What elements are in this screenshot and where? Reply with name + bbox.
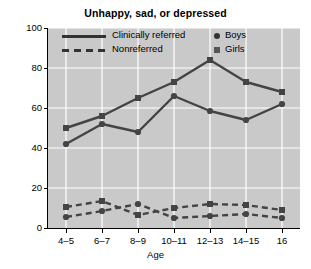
- data-point-square: [135, 95, 141, 101]
- data-point-square: [243, 79, 249, 85]
- data-point-square: [243, 202, 249, 208]
- chart-title: Unhappy, sad, or depressed: [0, 7, 311, 19]
- data-point-square: [279, 89, 285, 95]
- x-tick-mark: [174, 229, 175, 233]
- data-point-circle: [63, 214, 69, 220]
- data-point-square: [207, 201, 213, 207]
- x-tick-label: 16: [257, 235, 307, 246]
- y-tick-mark: [44, 108, 48, 109]
- square-marker-icon: [214, 47, 220, 53]
- circle-marker-icon: [214, 33, 220, 39]
- y-tick-label: 0: [16, 222, 42, 233]
- data-point-square: [63, 125, 69, 131]
- solid-line-swatch: [62, 35, 106, 38]
- data-point-circle: [207, 213, 213, 219]
- x-tick-mark: [102, 229, 103, 233]
- data-point-square: [99, 198, 105, 204]
- dashed-line-swatch: [62, 49, 106, 52]
- y-tick-label: 60: [16, 102, 42, 113]
- y-tick-label: 40: [16, 142, 42, 153]
- y-tick-mark: [44, 28, 48, 29]
- data-point-square: [63, 204, 69, 210]
- data-point-circle: [279, 215, 285, 221]
- legend-label-clinically-referred: Clinically referred: [112, 29, 185, 40]
- data-point-circle: [207, 108, 213, 114]
- y-tick-mark: [44, 188, 48, 189]
- x-tick-mark: [210, 229, 211, 233]
- x-axis-label: Age: [0, 249, 311, 260]
- data-point-circle: [279, 101, 285, 107]
- data-point-circle: [171, 215, 177, 221]
- x-tick-mark: [282, 229, 283, 233]
- data-point-circle: [63, 141, 69, 147]
- data-point-circle: [135, 201, 141, 207]
- data-point-square: [135, 212, 141, 218]
- x-tick-mark: [246, 229, 247, 233]
- legend-label-boys: Boys: [225, 29, 246, 40]
- chart-legend: Clinically referred Nonreferred Boys Gir…: [62, 30, 262, 60]
- data-point-circle: [243, 117, 249, 123]
- y-tick-label: 80: [16, 62, 42, 73]
- data-point-circle: [99, 208, 105, 214]
- data-point-circle: [99, 121, 105, 127]
- y-axis-line: [47, 28, 48, 228]
- y-tick-mark: [44, 148, 48, 149]
- data-point-square: [171, 205, 177, 211]
- chart-figure: Unhappy, sad, or depressed 020406080100 …: [0, 0, 311, 269]
- y-tick-label: 100: [16, 22, 42, 33]
- x-tick-mark: [66, 229, 67, 233]
- legend-label-girls: Girls: [225, 43, 245, 54]
- data-point-square: [99, 113, 105, 119]
- data-point-square: [279, 207, 285, 213]
- data-point-circle: [171, 93, 177, 99]
- y-tick-mark: [44, 68, 48, 69]
- data-point-circle: [243, 211, 249, 217]
- y-tick-mark: [44, 228, 48, 229]
- x-tick-mark: [138, 229, 139, 233]
- y-tick-label: 20: [16, 182, 42, 193]
- data-point-square: [171, 79, 177, 85]
- legend-label-nonreferred: Nonreferred: [112, 43, 163, 54]
- data-point-circle: [135, 129, 141, 135]
